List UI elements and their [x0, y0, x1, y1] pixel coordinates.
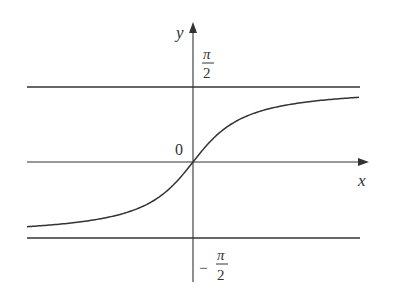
lower-label-numerator: π [217, 247, 225, 263]
lower-label-sign: − [199, 260, 207, 276]
x-axis-arrow-icon [358, 158, 369, 166]
origin-label: 0 [175, 141, 183, 158]
upper-label-denominator: 2 [203, 65, 211, 81]
lower-label-denominator: 2 [217, 267, 225, 283]
y-axis-arrow-icon [189, 22, 197, 33]
x-axis-label: x [357, 171, 366, 190]
y-axis-label: y [174, 23, 184, 42]
upper-label-numerator: π [203, 46, 211, 62]
arctan-graph: y x 0 π 2 − π 2 [0, 0, 396, 306]
